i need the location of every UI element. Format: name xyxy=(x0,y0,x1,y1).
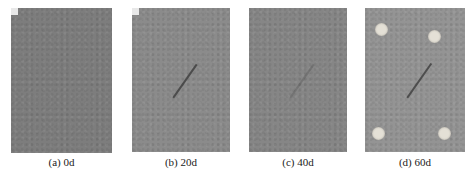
marker-dot xyxy=(375,23,388,36)
marker-dot xyxy=(372,127,385,140)
specimen-photo-40d xyxy=(249,8,347,152)
marker-dot xyxy=(428,30,441,43)
specimen-photo-60d xyxy=(365,8,465,152)
specimen-corner-mark xyxy=(11,8,18,15)
specimen-photo-0d xyxy=(11,8,112,153)
specimen-photo-20d xyxy=(132,8,230,152)
caption-40d: (c) 40d xyxy=(249,156,347,168)
marker-dot xyxy=(438,127,451,140)
caption-0d: (a) 0d xyxy=(11,156,112,168)
caption-20d: (b) 20d xyxy=(132,156,230,168)
specimen-corner-mark xyxy=(132,8,139,15)
caption-60d: (d) 60d xyxy=(365,156,465,168)
